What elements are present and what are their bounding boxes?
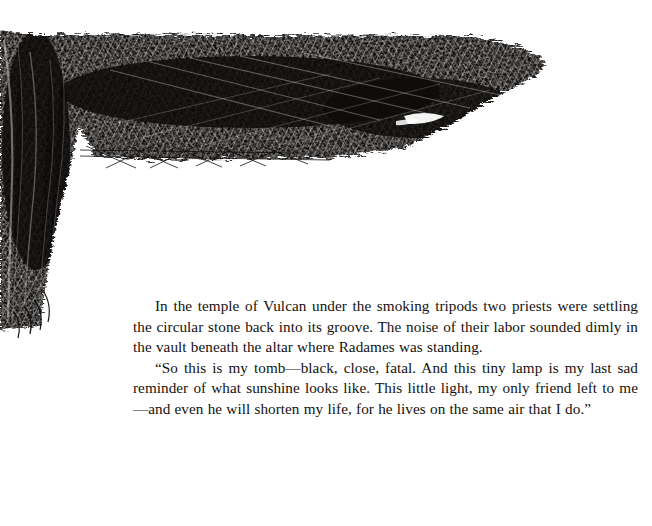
lattice-underside (80, 144, 330, 168)
paragraph-2: “So this is my tomb—black, close, fatal.… (133, 358, 638, 420)
paragraph-1: In the temple of Vulcan under the smokin… (133, 296, 638, 358)
book-page: In the temple of Vulcan under the smokin… (0, 0, 652, 526)
illustration-hatching (0, 0, 570, 340)
crosshatch-lintel-illustration (0, 0, 570, 340)
column-base-tendrils (14, 292, 49, 338)
body-text: In the temple of Vulcan under the smokin… (133, 296, 638, 420)
